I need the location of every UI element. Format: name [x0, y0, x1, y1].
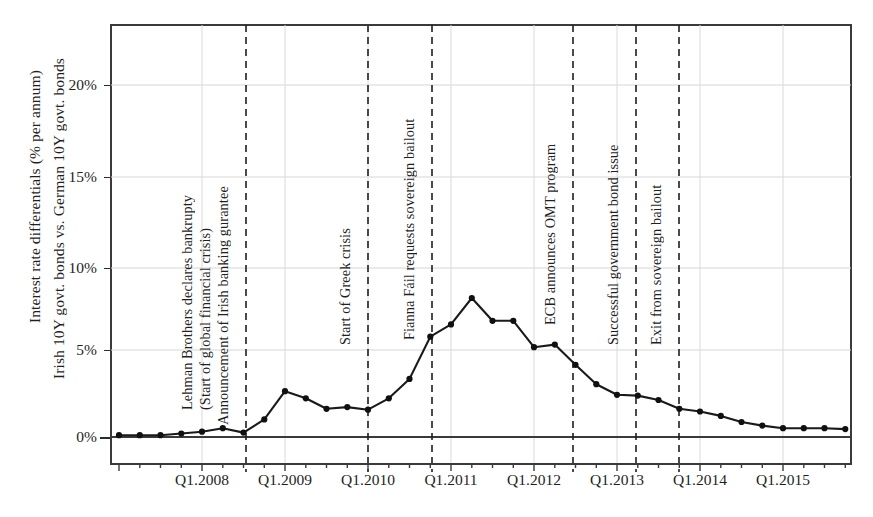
- data-point: [759, 423, 765, 429]
- data-point: [801, 425, 807, 431]
- data-point: [137, 432, 143, 438]
- data-point: [614, 392, 620, 398]
- data-point: [344, 404, 350, 410]
- plot-area: [0, 0, 873, 517]
- annotation-successful-bond-issue: Successful government bond issue: [605, 144, 622, 345]
- x-tick-label-q1-2011: Q1.2011: [424, 471, 477, 489]
- x-tick-label-q1-2012: Q1.2012: [507, 471, 561, 489]
- data-point: [386, 395, 392, 401]
- data-point: [780, 425, 786, 431]
- x-tick-marks: [119, 464, 845, 471]
- data-point: [323, 406, 329, 412]
- data-point: [510, 318, 516, 324]
- x-tick-label-q1-2010: Q1.2010: [341, 471, 395, 489]
- data-point: [489, 318, 495, 324]
- data-point: [157, 432, 163, 438]
- data-point: [448, 321, 454, 327]
- x-tick-label-q1-2013: Q1.2013: [590, 471, 644, 489]
- data-point: [282, 388, 288, 394]
- data-point: [676, 406, 682, 412]
- x-tick-label-q1-2015: Q1.2015: [756, 471, 810, 489]
- data-point: [842, 426, 848, 432]
- data-point: [655, 397, 661, 403]
- data-point: [821, 425, 827, 431]
- data-point: [552, 342, 558, 348]
- annotation-global-financial-crisis: (Start of global financial crisis): [197, 228, 214, 410]
- data-point: [261, 416, 267, 422]
- annotation-ecb-omt-program: ECB announces OMT program: [542, 144, 559, 325]
- data-point: [697, 408, 703, 414]
- data-point: [116, 432, 122, 438]
- x-tick-label-q1-2014: Q1.2014: [673, 471, 727, 489]
- data-point: [220, 425, 226, 431]
- annotation-fianna-fail-bailout: Fianna Fáil requests sovereign bailout: [401, 119, 418, 340]
- data-point: [178, 430, 184, 436]
- data-point: [427, 334, 433, 340]
- data-point: [469, 295, 475, 301]
- x-tick-label-q1-2009: Q1.2009: [258, 471, 312, 489]
- annotation-irish-banking-guarantee: Announcement of Irish banking gurantee: [215, 186, 232, 425]
- chart-figure: Interest rate differentials (% per annum…: [0, 0, 873, 517]
- data-point: [635, 393, 641, 399]
- data-point: [738, 419, 744, 425]
- data-point: [572, 362, 578, 368]
- data-point: [406, 376, 412, 382]
- data-point: [365, 407, 371, 413]
- data-point: [531, 344, 537, 350]
- data-point: [303, 395, 309, 401]
- data-point: [593, 381, 599, 387]
- data-point: [718, 413, 724, 419]
- x-tick-label-q1-2008: Q1.2008: [175, 471, 229, 489]
- annotation-lehman-bankruptcy: Lehman Brothers declares bankrupty: [179, 195, 196, 410]
- data-point: [240, 430, 246, 436]
- annotation-exit-sovereign-bailout: Exit from sovereign bailout: [648, 185, 665, 345]
- annotation-greek-crisis: Start of Greek crisis: [337, 228, 354, 345]
- data-point: [199, 429, 205, 435]
